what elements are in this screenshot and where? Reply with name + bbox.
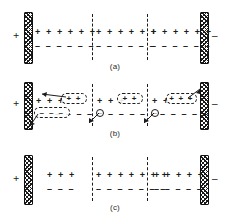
cell-a-2-minus-row: – – – – – – xyxy=(96,41,156,51)
cell-a-1-minus-row: – – – – – – xyxy=(35,41,95,51)
right-terminal-c: – xyxy=(212,173,218,184)
right-terminal-b: – xyxy=(212,98,218,109)
charge-packet-b-2-plus: + + xyxy=(117,93,143,104)
leader-arrow-b-5 xyxy=(186,86,208,104)
cell-c-1-plus-row: + + + xyxy=(47,170,76,180)
separator-c-1 xyxy=(92,157,93,201)
panel-c: + – + + + – – – + + + + + + + – – – – – … xyxy=(0,145,230,221)
separator-a-2 xyxy=(147,14,148,60)
separator-a-1 xyxy=(92,14,93,60)
panel-b: + – + + + – – – – + + – – – – + + + – – … xyxy=(0,74,230,145)
cell-c-3-minus-row: – – – – – xyxy=(154,184,203,194)
cell-c-1-minus-row: – – – xyxy=(47,184,75,194)
panel-a: + – + + + + + + – – – – – – + + + + + + … xyxy=(0,0,230,74)
left-terminal-a: + xyxy=(13,30,19,41)
cell-a-3-minus-row: – – – – – – xyxy=(151,41,211,51)
left-electrode-c xyxy=(24,155,33,205)
right-electrode-c xyxy=(200,155,209,205)
right-terminal-a: – xyxy=(212,30,218,41)
cell-b-3-minus-row: – – – – – xyxy=(160,109,209,119)
figure-capacitor-charge-diagram: + – + + + + + + – – – – – – + + + + + + … xyxy=(0,0,230,221)
cell-a-1-plus-row: + + + + + + xyxy=(35,27,97,37)
left-terminal-b: + xyxy=(13,98,19,109)
left-electrode-a xyxy=(24,12,33,64)
caption-b: (b) xyxy=(0,129,230,138)
cell-a-2-plus-row: + + + + + + xyxy=(96,27,158,37)
cell-c-3-plus-row: + + + + + xyxy=(154,170,205,180)
left-terminal-c: + xyxy=(13,173,19,184)
caption-c: (c) xyxy=(0,203,230,212)
cell-a-3-plus-row: + + + + + + xyxy=(151,27,213,37)
right-electrode-a xyxy=(200,12,209,64)
caption-a: (a) xyxy=(0,62,230,71)
